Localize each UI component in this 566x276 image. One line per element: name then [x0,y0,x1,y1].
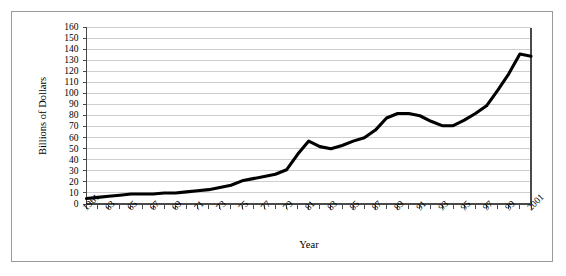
x-tick-label: 75 [236,198,250,212]
y-tick-label: 60 [69,133,79,143]
x-tick-label: 69 [170,198,184,212]
x-tick-label: 95 [459,198,473,212]
y-tick-label: 70 [69,121,79,131]
y-tick-labels: 0102030405060708090100110120130140150160 [64,22,79,209]
y-tick-label: 90 [69,99,79,109]
x-tick-label: 77 [259,198,273,212]
x-tick-label: 67 [148,198,162,212]
y-tick-label: 100 [64,88,79,98]
y-tick-label: 80 [69,110,79,120]
x-tick-label: 1961 [81,192,102,213]
x-tick-label: 91 [414,198,428,212]
y-tick-label: 150 [64,33,79,43]
x-tick-label: 89 [392,198,406,212]
x-tick-label: 79 [281,198,295,212]
y-tick-label: 40 [69,155,79,165]
y-tick-label: 130 [64,55,79,65]
y-tick-label: 160 [64,22,79,32]
y-tick-label: 120 [64,66,79,76]
y-tick-label: 50 [69,144,79,154]
x-tick-label: 87 [370,198,384,212]
tick-marks [83,28,532,209]
gridlines [87,28,532,205]
data-series-line [87,54,532,199]
line-chart: 0102030405060708090100110120130140150160… [0,0,566,276]
y-tick-label: 20 [69,177,79,187]
y-axis-title: Billions of Dollars [37,77,48,155]
x-tick-label: 99 [503,198,517,212]
y-tick-label: 110 [65,77,79,87]
x-tick-label: 85 [348,198,362,212]
y-tick-label: 30 [69,166,79,176]
x-tick-label: 63 [103,198,117,212]
x-tick-label: 93 [436,198,450,212]
y-tick-label: 0 [74,199,79,209]
x-tick-label: 71 [192,198,206,212]
x-tick-label: 97 [481,198,495,212]
x-tick-label: 83 [325,198,339,212]
x-axis-title: Year [299,239,319,250]
x-tick-label: 73 [214,198,228,212]
y-tick-label: 10 [69,188,79,198]
y-tick-label: 140 [64,44,79,54]
plot-area: 0102030405060708090100110120130140150160… [0,0,566,276]
x-tick-label: 65 [125,198,139,212]
x-tick-label: 2001 [525,192,546,213]
chart-figure: 0102030405060708090100110120130140150160… [0,0,566,276]
x-tick-label: 81 [303,198,317,212]
